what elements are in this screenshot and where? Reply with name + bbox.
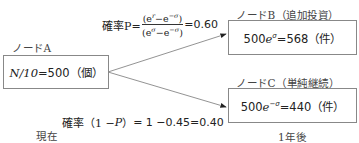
node-a-result: =500（個） [38, 66, 103, 80]
time-label-now: 現在 [36, 128, 57, 143]
node-c-box: 500e−σ=440（件） [228, 88, 357, 123]
node-a-value: N/10=500（個） [9, 64, 102, 80]
prob-up-denominator: (eσ−e−σ) [142, 25, 183, 38]
prob-down-var: P [115, 116, 122, 129]
probability-down: 確率（1 −P）= 1 −0.45=0.40 [62, 114, 224, 130]
node-c-value: 500e−σ=440（件） [241, 98, 345, 114]
node-a-label: ノードA [12, 40, 52, 55]
prob-down-prefix: 確率（1 − [62, 114, 115, 130]
node-a-box: N/10=500（個） [3, 55, 109, 89]
prob-up-numerator: (er−e−σ) [142, 11, 184, 25]
prob-down-suffix: ） [122, 114, 133, 130]
time-label-one-year: 1年後 [278, 129, 306, 143]
node-b-box: 500eσ=568（件） [228, 20, 357, 55]
arrow-to-node-b [108, 34, 226, 72]
node-a-var: N [9, 66, 19, 80]
probability-up: 確率P= (er−e−σ) (eσ−e−σ) =0.60 [102, 11, 218, 38]
prob-up-fraction: (er−e−σ) (eσ−e−σ) [142, 11, 184, 38]
prob-down-result: = 1 −0.45=0.40 [133, 116, 224, 129]
prob-up-prefix: 確率P= [102, 17, 141, 33]
node-b-value: 500eσ=568（件） [244, 30, 342, 46]
prob-up-result: =0.60 [184, 18, 218, 31]
node-a-divisor: /10 [19, 66, 38, 80]
arrow-to-node-c [108, 72, 226, 107]
